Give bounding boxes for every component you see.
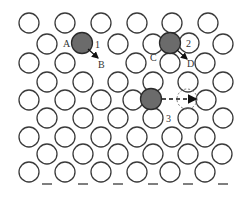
lattice-atom xyxy=(160,162,180,182)
lattice-atom xyxy=(19,127,39,147)
atoms-layer xyxy=(19,13,233,182)
lattice-atom xyxy=(196,90,216,110)
lattice-atom xyxy=(198,13,218,33)
lattice-atom xyxy=(108,34,128,54)
lattice-atom xyxy=(127,13,147,33)
lattice-atom xyxy=(143,144,163,164)
lattice-canvas: A 1 B C 2 D 3 xyxy=(0,0,247,197)
label-3: 3 xyxy=(166,113,171,124)
lattice-atom xyxy=(19,162,39,182)
lattice-atom xyxy=(178,144,198,164)
lattice-atom xyxy=(213,72,233,92)
lattice-atom xyxy=(162,13,182,33)
lattice-atom xyxy=(37,34,57,54)
lattice-atom xyxy=(108,144,128,164)
lattice-atom xyxy=(73,72,93,92)
lattice-atom xyxy=(195,127,215,147)
lattice-atom xyxy=(55,162,75,182)
filled-atom-3-site xyxy=(141,89,162,110)
lattice-atom xyxy=(178,72,198,92)
lattice-diagram: A 1 B C 2 D 3 xyxy=(0,0,247,197)
lattice-atom xyxy=(37,72,57,92)
lattice-atom xyxy=(108,108,128,128)
lattice-atom xyxy=(213,34,233,54)
arrow-1-to-B-icon xyxy=(88,49,98,58)
lattice-atom xyxy=(55,90,75,110)
lattice-atom xyxy=(19,53,39,73)
lattice-atom xyxy=(195,162,215,182)
lattice-atom xyxy=(37,144,57,164)
lattice-atom xyxy=(195,53,215,73)
lattice-atom xyxy=(91,127,111,147)
lattice-atom xyxy=(19,13,39,33)
lattice-atom xyxy=(91,13,111,33)
lattice-atom xyxy=(127,162,147,182)
lattice-atom xyxy=(212,144,232,164)
label-A: A xyxy=(63,38,71,49)
lattice-atom xyxy=(73,144,93,164)
lattice-atom xyxy=(160,53,180,73)
lattice-atom xyxy=(55,13,75,33)
lattice-atom xyxy=(126,53,146,73)
lattice-atom xyxy=(108,72,128,92)
lattice-atom xyxy=(19,90,39,110)
label-1: 1 xyxy=(95,39,100,50)
lattice-atom xyxy=(213,108,233,128)
label-C: C xyxy=(150,52,157,63)
lattice-atom xyxy=(143,108,163,128)
lattice-atom xyxy=(37,108,57,128)
label-B: B xyxy=(98,59,105,70)
lattice-atom xyxy=(91,90,111,110)
lattice-atom xyxy=(162,127,182,147)
lattice-atom xyxy=(127,127,147,147)
label-D: D xyxy=(187,58,194,69)
lattice-atom xyxy=(178,108,198,128)
lattice-atom xyxy=(55,127,75,147)
lattice-atom xyxy=(91,162,111,182)
label-2: 2 xyxy=(186,38,191,49)
lattice-atom xyxy=(73,108,93,128)
lattice-atom xyxy=(55,53,75,73)
